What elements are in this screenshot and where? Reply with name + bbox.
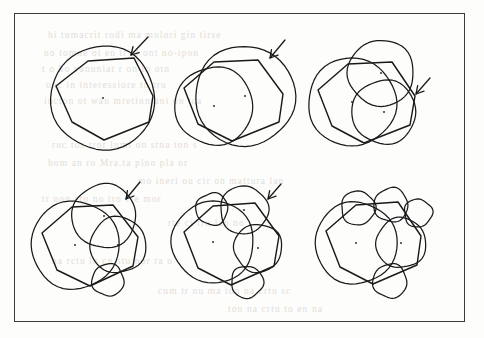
panel-4-circle-2-center-dot xyxy=(74,244,76,246)
panel-6-circle-4 xyxy=(374,187,408,222)
panel-5-circle-1-center-dot xyxy=(243,209,245,211)
panel-3-circle-3-center-dot xyxy=(383,111,385,113)
panel-5-circle-2 xyxy=(171,201,253,283)
panel-2-circle-2-center-dot xyxy=(213,105,215,107)
panel-4-circle-4 xyxy=(92,264,125,296)
panels-group xyxy=(31,37,433,299)
panel-2-circle-1-center-dot xyxy=(244,95,246,97)
panel-6-circle-2-center-dot xyxy=(400,242,402,244)
panel-2-inscribed-polygon xyxy=(184,60,283,141)
panel-1-circle-1-center-dot xyxy=(102,97,104,99)
panel-5-circle-2-center-dot xyxy=(212,241,214,243)
panel-2 xyxy=(175,40,296,147)
panel-5 xyxy=(171,184,282,299)
panel-3-circle-1-center-dot xyxy=(380,72,382,74)
panel-4 xyxy=(31,182,146,296)
panel-6-circle-1-center-dot xyxy=(355,242,357,244)
panel-6-circle-5 xyxy=(404,199,433,227)
panel-2-circle-1 xyxy=(196,47,296,147)
panel-4-circle-3-center-dot xyxy=(117,244,119,246)
panel-6-circle-3 xyxy=(342,191,376,225)
panel-6-circle-6 xyxy=(373,264,407,299)
panel-1-inscribed-polygon xyxy=(56,58,153,140)
panel-6 xyxy=(315,187,433,298)
panel-1 xyxy=(51,37,155,150)
panel-5-circle-3-center-dot xyxy=(257,247,259,249)
panel-4-circle-1-center-dot xyxy=(103,215,105,217)
panel-5-inscribed-polygon xyxy=(184,203,279,285)
panel-3 xyxy=(309,41,430,146)
figure-drawing xyxy=(0,0,484,338)
panel-5-circle-4 xyxy=(196,193,228,226)
panel-3-circle-1 xyxy=(347,41,413,107)
scanned-page: hi tumacrit rodi ma mulori gin tirseno t… xyxy=(0,0,484,338)
